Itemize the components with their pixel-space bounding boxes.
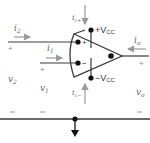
v1-label: v1 (40, 83, 49, 94)
vo-label: vo (136, 87, 145, 98)
ic-minus-label: ic− (72, 88, 82, 98)
i1-label: i1 (47, 43, 54, 54)
op-amp-diagram: i2 + i1 + + − +VCC −VCC ic+ ic− io + v2 … (0, 0, 150, 143)
noninverting-input-node (75, 39, 80, 44)
i2-label: i2 (14, 23, 21, 34)
vcc-plus-node (88, 27, 93, 32)
output-plus-sign: + (139, 59, 144, 68)
vcc-minus-node (88, 75, 93, 80)
inverting-input-node (75, 60, 80, 65)
top-plus-sign: + (8, 44, 13, 53)
ground-arrow-icon (71, 130, 79, 137)
output-node (108, 53, 114, 59)
mid-plus-sign: + (40, 65, 45, 74)
op-amp-top-edge (74, 30, 85, 34)
v2-label: v2 (8, 74, 17, 85)
vcc-plus-label: +VCC (95, 25, 116, 35)
vcc-minus-label: −VCC (95, 73, 116, 83)
inverting-input-label: − (82, 59, 87, 68)
ic-plus-label: ic+ (72, 13, 82, 23)
io-label: io (134, 35, 141, 46)
noninverting-input-label: + (82, 38, 87, 47)
